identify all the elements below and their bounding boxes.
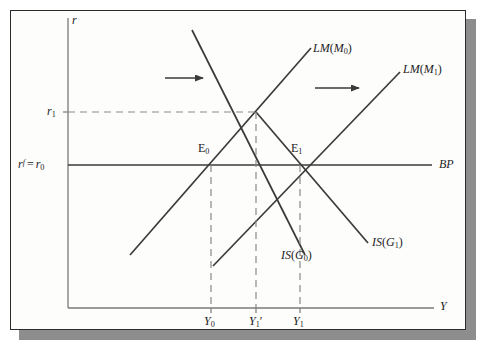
figure-stage: r Y r1 rf=r0 Y0 Y1′ Y1 E0 E1 LM(M0) LM(M… xyxy=(0,0,486,349)
is-g1-curve xyxy=(256,112,368,243)
curve-label-bp: BP xyxy=(439,158,454,170)
y-axis-label: r xyxy=(72,14,77,26)
curve-label-is-g0: IS(G0) xyxy=(281,249,312,263)
y-tick-label-r1: r1 xyxy=(47,105,56,119)
curve-label-is-g1: IS(G1) xyxy=(372,236,403,250)
x-axis-label: Y xyxy=(440,300,447,312)
x-tick-label-y1: Y1 xyxy=(293,315,304,329)
lm-m0-curve xyxy=(130,48,311,255)
x-tick-label-y1-prime: Y1′ xyxy=(249,315,262,329)
x-tick-label-y0: Y0 xyxy=(204,315,215,329)
y-tick-label-rf-r0: rf=r0 xyxy=(18,158,44,172)
is-lm-bp-plot xyxy=(0,0,486,349)
equilibrium-label-e1: E1 xyxy=(291,142,302,156)
equilibrium-label-e0: E0 xyxy=(198,142,209,156)
curve-label-lm-m1: LM(M1) xyxy=(403,63,442,77)
curve-label-lm-m0: LM(M0) xyxy=(313,42,352,56)
